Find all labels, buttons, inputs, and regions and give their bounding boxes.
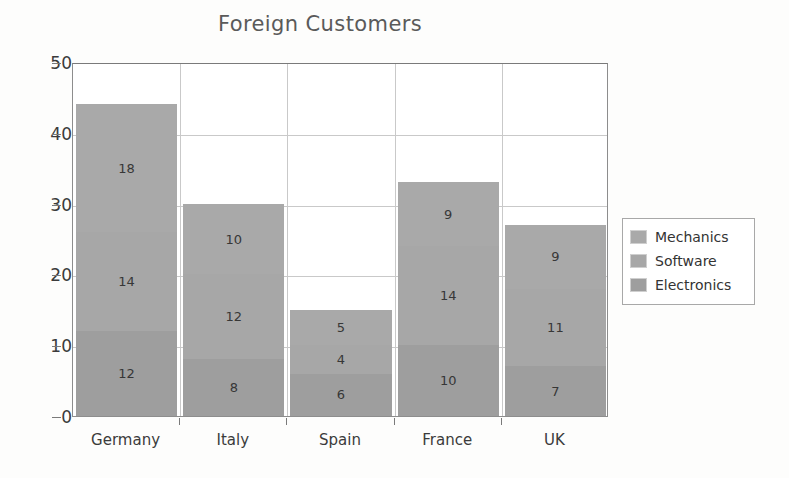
legend-item-software[interactable]: Software (630, 249, 747, 273)
bar-uk[interactable]: 7119 (505, 225, 606, 416)
bar-france[interactable]: 10149 (398, 182, 499, 416)
legend-label: Software (655, 253, 717, 269)
bar-segment-value: 12 (226, 309, 243, 324)
x-axis-tick-mark (179, 418, 180, 425)
bar-segment-value: 9 (444, 207, 452, 222)
y-axis-tick-mark (52, 63, 61, 64)
legend-item-electronics[interactable]: Electronics (630, 273, 747, 297)
gridline-vertical (287, 64, 288, 416)
bar-segment-mechanics[interactable]: 9 (398, 182, 499, 246)
x-axis-tick-label: Germany (91, 431, 160, 449)
bar-segment-value: 6 (337, 387, 345, 402)
bar-segment-software[interactable]: 14 (398, 246, 499, 345)
legend-label: Electronics (655, 277, 731, 293)
gridline-vertical (180, 64, 181, 416)
x-axis-tick-mark (501, 418, 502, 425)
bar-segment-mechanics[interactable]: 5 (290, 310, 391, 345)
bar-segment-value: 11 (547, 320, 564, 335)
x-axis-tick-mark (394, 418, 395, 425)
bar-segment-value: 7 (551, 384, 559, 399)
bar-segment-value: 4 (337, 352, 345, 367)
bar-segment-value: 5 (337, 320, 345, 335)
chart-title: Foreign Customers (0, 12, 640, 36)
bar-segment-electronics[interactable]: 8 (183, 359, 284, 416)
bar-segment-electronics[interactable]: 10 (398, 345, 499, 416)
bar-segment-value: 14 (118, 274, 135, 289)
legend-swatch-icon (630, 230, 647, 244)
bar-segment-value: 9 (551, 249, 559, 264)
legend-label: Mechanics (655, 229, 729, 245)
bar-segment-software[interactable]: 11 (505, 289, 606, 367)
x-axis-tick-label: UK (544, 431, 565, 449)
bar-segment-value: 18 (118, 161, 135, 176)
bar-segment-software[interactable]: 14 (76, 232, 177, 331)
y-axis-tick-mark (52, 417, 61, 418)
x-axis-tick-label: France (422, 431, 472, 449)
legend-swatch-icon (630, 278, 647, 292)
y-axis-tick-mark (52, 134, 61, 135)
bar-segment-mechanics[interactable]: 10 (183, 204, 284, 275)
y-axis-tick-label: 10 (28, 336, 72, 356)
x-axis-tick-label: Italy (217, 431, 250, 449)
bar-segment-electronics[interactable]: 6 (290, 374, 391, 416)
bar-segment-value: 8 (230, 380, 238, 395)
bar-segment-electronics[interactable]: 7 (505, 366, 606, 416)
bar-segment-value: 12 (118, 366, 135, 381)
gridline-vertical (502, 64, 503, 416)
bar-segment-mechanics[interactable]: 18 (76, 104, 177, 231)
y-axis-tick-mark (52, 205, 61, 206)
bar-spain[interactable]: 645 (290, 310, 391, 416)
bar-segment-software[interactable]: 12 (183, 274, 284, 359)
legend-item-mechanics[interactable]: Mechanics (630, 225, 747, 249)
legend-swatch-icon (630, 254, 647, 268)
y-axis-tick-label: 0 (28, 407, 72, 427)
y-axis-tick-label: 30 (28, 195, 72, 215)
y-axis-tick-mark (52, 346, 61, 347)
bar-segment-electronics[interactable]: 12 (76, 331, 177, 416)
chart-container: Foreign Customers 01020304050 1214188121… (0, 0, 789, 478)
bar-segment-value: 10 (226, 232, 243, 247)
x-axis-tick-label: Spain (319, 431, 361, 449)
x-axis-tick-mark (286, 418, 287, 425)
bar-segment-value: 14 (440, 288, 457, 303)
y-axis-tick-label: 20 (28, 265, 72, 285)
bar-segment-software[interactable]: 4 (290, 345, 391, 373)
plot-area: 12141881210645101497119 (72, 63, 608, 417)
bar-germany[interactable]: 121418 (76, 104, 177, 416)
y-axis-tick-label: 50 (28, 53, 72, 73)
bar-segment-value: 10 (440, 373, 457, 388)
y-axis-tick-label: 40 (28, 124, 72, 144)
y-axis-tick-mark (52, 275, 61, 276)
y-axis: 01020304050 (0, 63, 72, 417)
x-axis: GermanyItalySpainFranceUK (72, 418, 608, 458)
bar-segment-mechanics[interactable]: 9 (505, 225, 606, 289)
gridline-vertical (395, 64, 396, 416)
bar-italy[interactable]: 81210 (183, 204, 284, 416)
chart-legend: MechanicsSoftwareElectronics (622, 218, 755, 305)
